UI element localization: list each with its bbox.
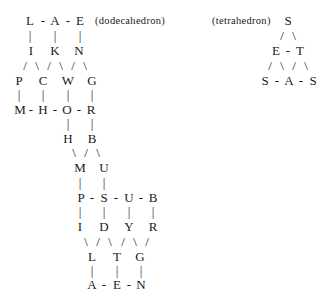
- vertex-letter: S: [261, 74, 268, 88]
- edge-horizontal: -: [29, 103, 33, 117]
- vertex-letter: A: [87, 278, 96, 292]
- vertex-letter: H: [38, 103, 47, 117]
- edge-diagonal: \: [292, 29, 296, 43]
- edge-diagonal: /: [268, 59, 272, 73]
- edge-vertical: |: [91, 264, 94, 278]
- edge-diagonal: /: [145, 235, 149, 249]
- edge-diagonal: /: [71, 59, 75, 73]
- vertex-letter: L: [26, 14, 34, 28]
- vertex-letter: E: [76, 14, 84, 28]
- edge-vertical: |: [140, 264, 143, 278]
- vertex-letter: O: [62, 103, 71, 117]
- edge-vertical: |: [128, 205, 131, 219]
- vertex-letter: H: [63, 132, 72, 146]
- edge-vertical: |: [91, 117, 94, 131]
- edge-horizontal: -: [286, 44, 290, 58]
- edge-diagonal: \: [108, 235, 112, 249]
- edge-vertical: |: [67, 117, 70, 131]
- edge-diagonal: \: [84, 235, 88, 249]
- vertex-letter: U: [124, 191, 133, 205]
- vertex-letter: T: [296, 44, 304, 58]
- vertex-letter: C: [39, 74, 48, 88]
- edge-vertical: |: [79, 176, 82, 190]
- vertex-letter: G: [135, 250, 144, 264]
- edge-horizontal: -: [139, 191, 143, 205]
- edge-vertical: |: [54, 29, 57, 43]
- vertex-letter: M: [74, 161, 86, 175]
- edge-horizontal: -: [114, 191, 118, 205]
- vertex-letter: I: [78, 220, 82, 234]
- vertex-letter: Y: [124, 220, 133, 234]
- edge-vertical: |: [103, 205, 106, 219]
- vertex-letter: S: [284, 14, 291, 28]
- edge-horizontal: -: [41, 14, 45, 28]
- vertex-letter: I: [29, 44, 33, 58]
- edge-horizontal: -: [275, 74, 279, 88]
- polyhedron-letter-diagram: (dodecahedron) (tetrahedron) L-A-E|||IKN…: [0, 0, 334, 306]
- edge-diagonal: \: [72, 146, 76, 160]
- edge-vertical: |: [79, 205, 82, 219]
- vertex-letter: E: [272, 44, 280, 58]
- edge-diagonal: /: [84, 146, 88, 160]
- vertex-letter: T: [113, 250, 121, 264]
- edge-vertical: |: [103, 176, 106, 190]
- vertex-letter: D: [99, 220, 108, 234]
- vertex-letter: G: [87, 74, 96, 88]
- vertex-letter: S: [100, 191, 107, 205]
- vertex-letter: R: [87, 103, 96, 117]
- edge-vertical: |: [116, 264, 119, 278]
- vertex-letter: W: [62, 74, 74, 88]
- edge-horizontal: -: [66, 14, 70, 28]
- edge-horizontal: -: [53, 103, 57, 117]
- vertex-letter: B: [88, 132, 97, 146]
- edge-diagonal: \: [59, 59, 63, 73]
- vertex-letter: N: [136, 278, 145, 292]
- edge-diagonal: \: [280, 59, 284, 73]
- vertex-letter: N: [74, 44, 83, 58]
- edge-vertical: |: [29, 29, 32, 43]
- edge-vertical: |: [152, 205, 155, 219]
- tetrahedron-label: (tetrahedron): [212, 15, 271, 27]
- edge-diagonal: \: [133, 235, 137, 249]
- edge-diagonal: /: [280, 29, 284, 43]
- edge-horizontal: -: [102, 278, 106, 292]
- vertex-letter: A: [50, 14, 59, 28]
- vertex-letter: B: [149, 191, 158, 205]
- vertex-letter: L: [88, 250, 96, 264]
- edge-horizontal: -: [127, 278, 131, 292]
- vertex-letter: U: [99, 161, 108, 175]
- edge-horizontal: -: [90, 191, 94, 205]
- edge-vertical: |: [91, 88, 94, 102]
- edge-vertical: |: [67, 88, 70, 102]
- edge-diagonal: \: [83, 59, 87, 73]
- edge-diagonal: /: [96, 235, 100, 249]
- edge-vertical: |: [18, 88, 21, 102]
- edge-diagonal: /: [23, 59, 27, 73]
- edge-diagonal: /: [47, 59, 51, 73]
- edge-diagonal: /: [121, 235, 125, 249]
- dodecahedron-label: (dodecahedron): [95, 15, 165, 27]
- edge-diagonal: \: [35, 59, 39, 73]
- edge-horizontal: -: [299, 74, 303, 88]
- edge-vertical: |: [42, 88, 45, 102]
- vertex-letter: A: [284, 74, 293, 88]
- edge-diagonal: \: [96, 146, 100, 160]
- vertex-letter: K: [50, 44, 59, 58]
- edge-diagonal: \: [304, 59, 308, 73]
- vertex-letter: M: [14, 103, 26, 117]
- vertex-letter: P: [15, 74, 22, 88]
- vertex-letter: E: [113, 278, 121, 292]
- edge-horizontal: -: [77, 103, 81, 117]
- edge-vertical: |: [79, 29, 82, 43]
- vertex-letter: S: [309, 74, 316, 88]
- vertex-letter: P: [77, 191, 84, 205]
- edge-diagonal: /: [292, 59, 296, 73]
- vertex-letter: R: [149, 220, 158, 234]
